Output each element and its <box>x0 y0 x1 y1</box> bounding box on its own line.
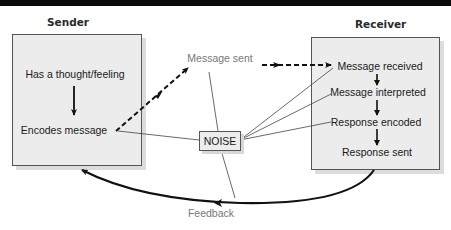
receiver-step-interpreted: Message interpreted <box>330 86 426 98</box>
sender-step-thought: Has a thought/feeling <box>25 68 124 80</box>
noise-line-interpreted <box>240 94 331 140</box>
noise-line-encodes <box>118 131 199 140</box>
receiver-step-encoded: Response encoded <box>331 116 422 128</box>
noise-line-received <box>240 68 333 140</box>
noise-line-feedback <box>221 150 235 198</box>
message-sent-label: Message sent <box>187 52 252 64</box>
receiver-step-received: Message received <box>337 60 422 72</box>
message-sent-dashed-arrow <box>116 68 188 131</box>
noise-line-message-sent <box>209 72 218 131</box>
noise-box: NOISE <box>199 131 241 151</box>
noise-line-encoded <box>240 122 331 140</box>
sender-step-encodes: Encodes message <box>21 124 107 136</box>
receiver-step-sent: Response sent <box>342 146 412 158</box>
feedback-label: Feedback <box>188 207 234 219</box>
diagram-connectors <box>0 0 451 230</box>
